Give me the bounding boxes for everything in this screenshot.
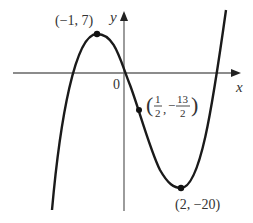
min-point-label: (2, −20) [175, 197, 221, 213]
inflection-point-label: ( 1 2 , − 13 2 ) [146, 92, 198, 119]
frac-x-den: 2 [155, 107, 161, 119]
max-point-label: (−1, 7) [55, 13, 94, 29]
y-axis-arrow-icon [120, 11, 128, 21]
svg-text:): ) [191, 92, 198, 117]
x-axis-arrow-icon [231, 69, 241, 77]
cubic-graph: y x 0 (−1, 7) (2, −20) ( 1 2 , − 13 2 ) [0, 0, 253, 223]
svg-text:,: , [163, 101, 166, 116]
axes [13, 11, 241, 211]
local-min-point [178, 185, 184, 191]
neg-sign: − [168, 98, 175, 113]
frac-y-den: 2 [180, 107, 186, 119]
x-axis-label: x [235, 79, 243, 95]
origin-label: 0 [113, 77, 120, 92]
svg-text:(: ( [146, 92, 153, 117]
y-axis-label: y [108, 9, 117, 25]
frac-x-num: 1 [155, 93, 161, 105]
local-max-point [94, 31, 100, 37]
frac-y-num: 13 [177, 93, 189, 105]
inflection-point [136, 107, 142, 113]
